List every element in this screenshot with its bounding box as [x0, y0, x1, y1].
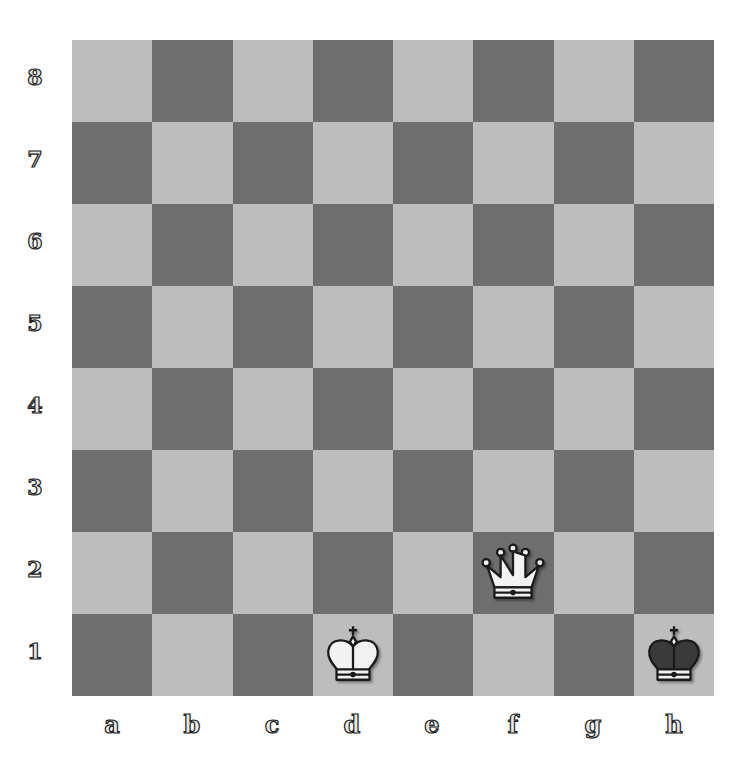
square-e5[interactable] [393, 286, 473, 368]
square-a3[interactable] [72, 450, 152, 532]
square-g8[interactable] [554, 40, 634, 122]
square-f6[interactable] [473, 204, 553, 286]
square-a5[interactable] [72, 286, 152, 368]
square-h2[interactable] [634, 532, 714, 614]
square-e1[interactable] [393, 614, 473, 696]
file-label-f: f [473, 710, 553, 739]
file-label-a: a [72, 710, 152, 739]
square-g6[interactable] [554, 204, 634, 286]
file-label-d: d [312, 710, 392, 739]
square-e2[interactable] [393, 532, 473, 614]
square-e6[interactable] [393, 204, 473, 286]
square-c8[interactable] [233, 40, 313, 122]
square-h8[interactable] [634, 40, 714, 122]
square-d6[interactable] [313, 204, 393, 286]
file-label-e: e [392, 710, 472, 739]
square-e3[interactable] [393, 450, 473, 532]
square-d5[interactable] [313, 286, 393, 368]
square-g5[interactable] [554, 286, 634, 368]
square-h1[interactable] [634, 614, 714, 696]
square-c3[interactable] [233, 450, 313, 532]
rank-label-1: 1 [22, 638, 48, 664]
square-f8[interactable] [473, 40, 553, 122]
square-b3[interactable] [152, 450, 232, 532]
square-c7[interactable] [233, 122, 313, 204]
square-b8[interactable] [152, 40, 232, 122]
square-h7[interactable] [634, 122, 714, 204]
square-h4[interactable] [634, 368, 714, 450]
square-b7[interactable] [152, 122, 232, 204]
square-e4[interactable] [393, 368, 473, 450]
square-h6[interactable] [634, 204, 714, 286]
square-b2[interactable] [152, 532, 232, 614]
square-e7[interactable] [393, 122, 473, 204]
square-d8[interactable] [313, 40, 393, 122]
square-b4[interactable] [152, 368, 232, 450]
file-label-g: g [553, 710, 633, 739]
square-g1[interactable] [554, 614, 634, 696]
rank-label-6: 6 [22, 228, 48, 254]
square-d4[interactable] [313, 368, 393, 450]
rank-label-2: 2 [22, 556, 48, 582]
square-h3[interactable] [634, 450, 714, 532]
square-g2[interactable] [554, 532, 634, 614]
square-b6[interactable] [152, 204, 232, 286]
square-b5[interactable] [152, 286, 232, 368]
rank-label-5: 5 [22, 310, 48, 336]
square-c4[interactable] [233, 368, 313, 450]
square-c5[interactable] [233, 286, 313, 368]
file-label-b: b [152, 710, 232, 739]
square-a2[interactable] [72, 532, 152, 614]
square-g3[interactable] [554, 450, 634, 532]
square-f2[interactable] [473, 532, 553, 614]
file-label-h: h [634, 710, 714, 739]
square-c2[interactable] [233, 532, 313, 614]
square-g7[interactable] [554, 122, 634, 204]
square-d2[interactable] [313, 532, 393, 614]
rank-label-3: 3 [22, 474, 48, 500]
square-f4[interactable] [473, 368, 553, 450]
square-c1[interactable] [233, 614, 313, 696]
square-b1[interactable] [152, 614, 232, 696]
white-queen-icon[interactable] [480, 540, 546, 606]
square-g4[interactable] [554, 368, 634, 450]
square-e8[interactable] [393, 40, 473, 122]
black-king-icon[interactable] [641, 622, 707, 688]
square-h5[interactable] [634, 286, 714, 368]
square-a7[interactable] [72, 122, 152, 204]
file-label-c: c [232, 710, 312, 739]
square-a4[interactable] [72, 368, 152, 450]
rank-label-8: 8 [22, 64, 48, 90]
square-a8[interactable] [72, 40, 152, 122]
square-f1[interactable] [473, 614, 553, 696]
white-king-icon[interactable] [320, 622, 386, 688]
square-f3[interactable] [473, 450, 553, 532]
square-c6[interactable] [233, 204, 313, 286]
square-d3[interactable] [313, 450, 393, 532]
square-d1[interactable] [313, 614, 393, 696]
rank-label-7: 7 [22, 146, 48, 172]
square-d7[interactable] [313, 122, 393, 204]
square-f5[interactable] [473, 286, 553, 368]
rank-label-4: 4 [22, 392, 48, 418]
square-a6[interactable] [72, 204, 152, 286]
square-f7[interactable] [473, 122, 553, 204]
chess-board [72, 40, 714, 696]
square-a1[interactable] [72, 614, 152, 696]
